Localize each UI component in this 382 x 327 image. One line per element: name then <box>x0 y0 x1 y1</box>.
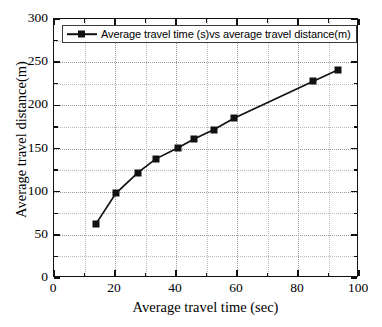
y-axis-tick <box>354 126 358 127</box>
x-axis-tick <box>175 270 176 276</box>
y-tick-label: 100 <box>28 184 48 198</box>
y-axis-tick <box>351 234 357 235</box>
y-axis-tick <box>354 169 358 170</box>
y-axis-tick <box>351 191 357 192</box>
x-tick-label: 80 <box>290 281 304 295</box>
y-axis-tick <box>351 61 357 62</box>
chart-legend: Average travel time (s)vs average travel… <box>62 25 357 43</box>
data-point-marker <box>134 169 141 176</box>
data-point-marker <box>310 78 317 85</box>
x-axis-tick <box>267 273 268 277</box>
x-axis-tick <box>206 273 207 277</box>
x-axis-tick <box>206 19 207 23</box>
x-axis-tick <box>328 273 329 277</box>
y-axis-tick <box>54 40 58 41</box>
y-axis-tick <box>54 148 60 149</box>
series-line <box>54 19 359 278</box>
y-axis-tick <box>54 277 60 278</box>
y-axis-title: Average travel distance(m) <box>13 15 30 265</box>
data-point-marker <box>112 190 119 197</box>
x-axis-tick <box>358 19 359 25</box>
y-tick-label: 150 <box>28 141 48 155</box>
x-axis-tick <box>236 270 237 276</box>
y-tick-label: 200 <box>28 98 48 112</box>
x-tick-label: 100 <box>348 281 368 295</box>
x-axis-title: Average travel time (sec) <box>53 299 358 316</box>
y-tick-label: 300 <box>28 11 48 25</box>
y-axis-tick <box>354 256 358 257</box>
y-axis-tick <box>351 105 357 106</box>
x-axis-tick <box>297 270 298 276</box>
y-axis-tick <box>54 213 58 214</box>
y-axis-tick <box>54 61 60 62</box>
data-point-marker <box>175 144 182 151</box>
data-point-marker <box>334 66 341 73</box>
y-tick-label: 50 <box>35 227 49 241</box>
y-axis-tick <box>351 18 357 19</box>
data-point-marker <box>93 220 100 227</box>
data-point-marker <box>230 115 237 122</box>
data-series-layer <box>54 19 357 276</box>
x-tick-label: 20 <box>107 281 121 295</box>
x-axis-tick <box>84 19 85 23</box>
x-axis-tick <box>358 270 359 276</box>
chart-figure: 050100150200250300 020406080100 Average … <box>0 0 382 327</box>
y-axis-tick <box>354 213 358 214</box>
x-axis-tick <box>145 19 146 23</box>
x-axis-tick <box>53 270 54 276</box>
legend-entry-label: Average travel time (s)vs average travel… <box>101 28 351 40</box>
y-tick-label: 0 <box>41 270 48 284</box>
x-tick-label: 60 <box>229 281 243 295</box>
x-axis-tick <box>114 270 115 276</box>
data-point-marker <box>152 155 159 162</box>
x-axis-tick <box>328 19 329 23</box>
y-axis-tick <box>54 83 58 84</box>
y-axis-tick <box>54 234 60 235</box>
legend-marker-icon <box>67 30 97 39</box>
x-tick-label: 40 <box>168 281 182 295</box>
data-point-marker <box>190 136 197 143</box>
data-point-marker <box>211 126 218 133</box>
plot-area <box>53 18 358 277</box>
x-tick-label: 0 <box>50 281 57 295</box>
y-axis-tick <box>54 105 60 106</box>
y-axis-tick <box>54 126 58 127</box>
y-axis-tick <box>54 256 58 257</box>
y-axis-tick <box>54 18 60 19</box>
y-axis-tick <box>354 83 358 84</box>
x-axis-tick-labels: 020406080100 <box>53 281 358 301</box>
y-axis-tick <box>351 148 357 149</box>
x-axis-tick <box>84 273 85 277</box>
y-axis-tick <box>351 277 357 278</box>
y-tick-label: 250 <box>28 54 48 68</box>
y-axis-tick <box>54 169 58 170</box>
x-axis-tick <box>267 19 268 23</box>
x-axis-tick <box>53 19 54 25</box>
y-axis-tick <box>54 191 60 192</box>
x-axis-tick <box>145 273 146 277</box>
